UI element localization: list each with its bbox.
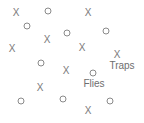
trap-x-icon: X: [85, 8, 92, 18]
fly-circle-icon: [24, 23, 31, 30]
trap-x-icon: X: [63, 66, 70, 76]
trap-x-icon: X: [79, 43, 86, 53]
trap-x-icon: X: [13, 8, 20, 18]
fly-circle-icon: [103, 28, 110, 35]
fly-circle-icon: [18, 98, 25, 105]
trap-x-icon: X: [37, 83, 44, 93]
fly-circle-icon: [64, 30, 71, 37]
fly-circle-icon: [45, 8, 52, 15]
fly-circle-icon: [38, 60, 45, 67]
trap-x-icon: X: [44, 35, 51, 45]
fly-circle-icon: [107, 98, 114, 105]
trap-x-icon: X: [114, 50, 121, 60]
flies-label: Flies: [83, 79, 104, 89]
fly-circle-icon: [90, 70, 97, 77]
trap-x-icon: X: [9, 44, 16, 54]
traps-and-flies-diagram: Traps Flies XXXXXXXXX: [0, 0, 144, 123]
traps-label: Traps: [109, 61, 134, 71]
fly-circle-icon: [60, 96, 67, 103]
trap-x-icon: X: [85, 106, 92, 116]
